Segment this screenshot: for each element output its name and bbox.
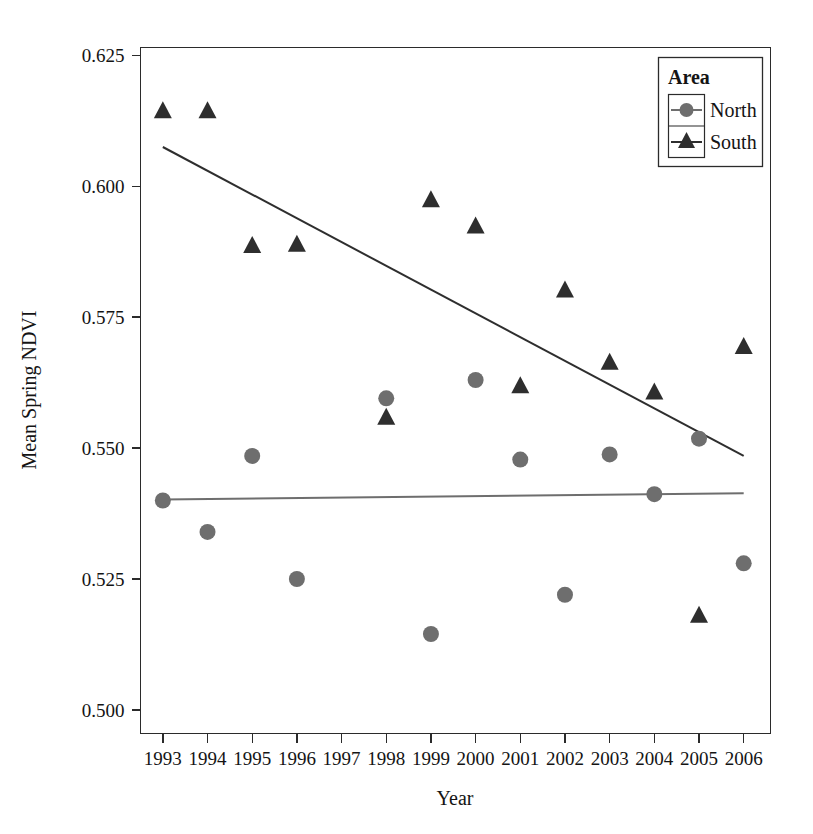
data-point-north-1995 bbox=[244, 448, 260, 464]
x-tick-label: 2004 bbox=[635, 748, 674, 769]
x-tick-label: 1997 bbox=[323, 748, 361, 769]
data-point-north-1994 bbox=[200, 524, 216, 540]
data-point-north-1996 bbox=[289, 571, 305, 587]
x-tick-label: 1999 bbox=[412, 748, 450, 769]
data-point-north-2006 bbox=[736, 555, 752, 571]
x-tick-label: 1994 bbox=[189, 748, 228, 769]
x-axis-ticks: 1993199419951996199719981999200020012002… bbox=[144, 734, 763, 769]
y-tick-label: 0.550 bbox=[82, 438, 125, 459]
data-point-north-2002 bbox=[557, 587, 573, 603]
data-point-north-2005 bbox=[691, 431, 707, 447]
y-tick-label: 0.625 bbox=[82, 45, 125, 66]
x-tick-label: 1995 bbox=[233, 748, 271, 769]
x-tick-label: 1996 bbox=[278, 748, 316, 769]
x-axis-title: Year bbox=[437, 787, 474, 809]
x-tick-label: 2002 bbox=[546, 748, 584, 769]
y-axis-ticks: 0.5000.5250.5500.5750.6000.625 bbox=[82, 45, 141, 721]
x-tick-label: 2003 bbox=[591, 748, 629, 769]
y-axis-title: Mean Spring NDVI bbox=[18, 311, 41, 470]
data-point-north-1993 bbox=[155, 492, 171, 508]
x-tick-label: 1998 bbox=[367, 748, 405, 769]
data-point-north-1998 bbox=[378, 390, 394, 406]
y-tick-label: 0.600 bbox=[82, 176, 125, 197]
y-tick-label: 0.525 bbox=[82, 569, 125, 590]
data-point-north-1999 bbox=[423, 626, 439, 642]
x-tick-label: 1993 bbox=[144, 748, 182, 769]
x-tick-label: 2005 bbox=[680, 748, 718, 769]
legend-title: Area bbox=[668, 66, 710, 88]
data-point-north-2004 bbox=[646, 486, 662, 502]
data-point-north-2003 bbox=[602, 446, 618, 462]
legend-north-circle-icon bbox=[680, 103, 694, 117]
x-tick-label: 2001 bbox=[501, 748, 539, 769]
ndvi-scatter-plot: 0.5000.5250.5500.5750.6000.625 199319941… bbox=[0, 0, 813, 834]
y-tick-label: 0.500 bbox=[82, 700, 125, 721]
data-point-north-2000 bbox=[468, 372, 484, 388]
legend[interactable]: Area North South bbox=[659, 58, 763, 167]
data-point-north-2001 bbox=[512, 452, 528, 468]
legend-north-label: North bbox=[710, 99, 757, 121]
x-tick-label: 2006 bbox=[725, 748, 763, 769]
chart-figure: 0.5000.5250.5500.5750.6000.625 199319941… bbox=[0, 0, 813, 834]
legend-south-label: South bbox=[710, 131, 757, 153]
y-tick-label: 0.575 bbox=[82, 307, 125, 328]
x-tick-label: 2000 bbox=[457, 748, 495, 769]
